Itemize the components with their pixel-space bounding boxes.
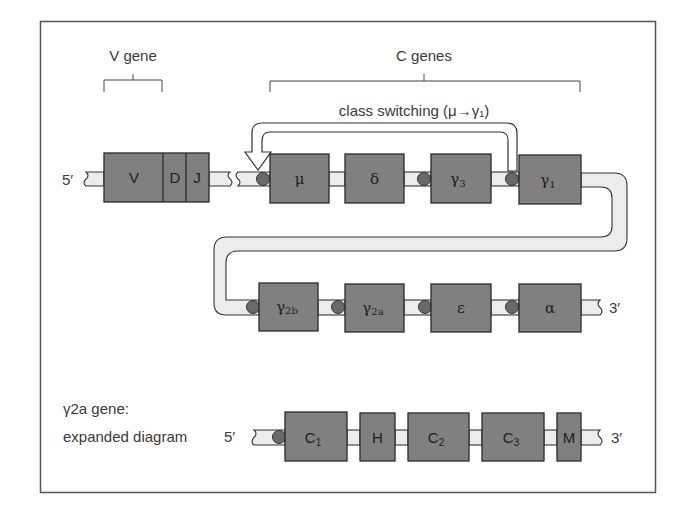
- svg-text:H: H: [372, 429, 383, 446]
- vdj-gene-box: V D J: [104, 153, 209, 202]
- c-genes-bracket: [270, 74, 580, 92]
- c-gene-epsilon: ε: [431, 284, 491, 332]
- c-gene-gamma2a: γ2a: [345, 284, 404, 332]
- switch-region-alpha: [506, 301, 519, 314]
- switch-region-gamma3: [418, 173, 431, 186]
- class-switching-label: class switching (μ→γ₁): [339, 102, 489, 119]
- row3-five-prime-label: 5′: [224, 428, 235, 445]
- row2-three-prime-label: 3′: [609, 299, 620, 316]
- switch-region-gamma2b: [247, 301, 260, 314]
- expanded-caption-line1: γ2a gene:: [63, 400, 129, 417]
- svg-text:δ: δ: [370, 170, 379, 188]
- exon-c2: C2: [408, 413, 469, 461]
- exon-c1: C1: [285, 412, 347, 461]
- c-gene-delta: δ: [345, 154, 404, 203]
- svg-text:ε: ε: [457, 299, 465, 317]
- svg-text:μ: μ: [295, 170, 305, 188]
- v-gene-label: V gene: [109, 47, 157, 64]
- c-gene-gamma2b: γ2b: [259, 283, 318, 331]
- d-segment-label: D: [170, 169, 181, 186]
- row1-five-prime-label: 5′: [62, 171, 73, 188]
- expanded-caption-line2: expanded diagram: [63, 428, 187, 445]
- exon-hinge: H: [360, 413, 395, 461]
- c-gene-mu: μ: [270, 154, 329, 203]
- c-gene-gamma1: γ1: [519, 155, 581, 204]
- exon-membrane: M: [557, 413, 581, 461]
- switch-region-mu: [257, 173, 270, 186]
- exon-c3: C3: [482, 413, 544, 461]
- j-segment-label: J: [193, 169, 201, 186]
- row3-three-prime-label: 3′: [611, 429, 622, 446]
- switch-region-gamma2a-expanded: [273, 431, 286, 444]
- switch-region-epsilon: [419, 301, 432, 314]
- svg-text:α: α: [545, 299, 555, 317]
- c-gene-alpha: α: [519, 284, 581, 332]
- v-segment-label: V: [129, 169, 139, 186]
- svg-text:M: M: [563, 429, 576, 446]
- immunoglobulin-gene-diagram: V gene C genes class switching (μ→γ₁) 5′…: [0, 0, 692, 515]
- c-gene-gamma3: γ3: [431, 154, 491, 203]
- v-gene-bracket: [104, 74, 162, 92]
- switch-region-gamma1: [506, 173, 519, 186]
- c-genes-label: C genes: [396, 47, 452, 64]
- switch-region-gamma2a: [332, 301, 345, 314]
